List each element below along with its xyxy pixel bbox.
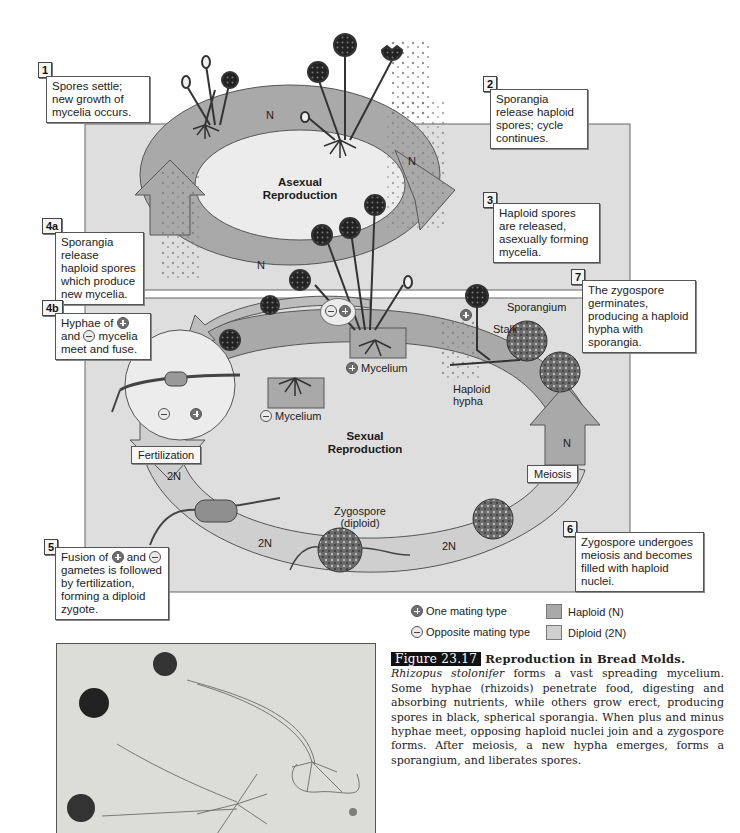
legend-minus: Opposite mating type: [411, 626, 530, 638]
minus-mating-icon: [149, 551, 161, 563]
ploidy-n-meiosis: N: [563, 437, 571, 449]
minus-mating-icon: [83, 330, 95, 342]
ploidy-2n-bottom-left: 2N: [258, 537, 272, 549]
fertilization-tag: Fertilization: [131, 446, 201, 464]
meiosis-tag: Meiosis: [527, 465, 578, 483]
plus-mating-icon: [460, 309, 472, 321]
sexual-title: Sexual Reproduction: [320, 430, 410, 456]
step-5-callout: Fusion of and gametes is followed by fer…: [55, 547, 169, 620]
plus-mycelium-label: Mycelium: [346, 362, 408, 374]
figure-title: Reproduction in Bread Molds.: [485, 652, 685, 666]
diploid-swatch: [546, 625, 562, 640]
haploid-hypha-label: Haploid hypha: [453, 383, 493, 407]
figure-number: Figure 23.17: [391, 652, 481, 666]
step-4a-text: Sporangia release haploid spores which p…: [61, 236, 136, 300]
step-6-text: Zygospore undergoes meiosis and becomes …: [581, 536, 693, 587]
minus-mycelium-label: Mycelium: [260, 410, 322, 422]
step-6-callout: Zygospore undergoes meiosis and becomes …: [575, 532, 704, 592]
asexual-title: Asexual Reproduction: [250, 176, 350, 202]
step-2-text: Sporangia release haploid spores; cycle …: [496, 93, 574, 144]
minus-mating-icon: [260, 410, 272, 422]
minus-mating-icon: [325, 305, 337, 317]
sporangium-label: Sporangium: [507, 301, 566, 313]
caption-body: Rhizopus stolonifer forms a vast spreadi…: [391, 667, 724, 768]
plus-mating-icon: [411, 605, 423, 617]
rhizopus-photo: [56, 643, 376, 833]
ploidy-n-right: N: [408, 155, 416, 167]
plus-mating-icon: [346, 362, 358, 374]
ploidy-n-left: N: [257, 259, 265, 271]
minus-mating-icon: [158, 408, 170, 420]
plus-mating-icon: [117, 317, 129, 329]
step-3-callout: Haploid spores are released, asexually f…: [493, 203, 600, 263]
ploidy-n-top: N: [266, 109, 274, 121]
plus-mating-icon: [112, 551, 124, 563]
legend-plus: One mating type: [411, 605, 507, 617]
photo-illustration: [57, 644, 375, 833]
legend-haploid: Haploid (N): [546, 604, 624, 619]
ploidy-2n-bottom-right: 2N: [442, 540, 456, 552]
zygospore-label: Zygospore(diploid): [334, 505, 386, 529]
step-4a-callout: Sporangia release haploid spores which p…: [55, 232, 144, 305]
step-1-callout: Spores settle; new growth of mycelia occ…: [46, 76, 150, 123]
legend-diploid: Diploid (2N): [546, 625, 626, 640]
step-4b-callout: Hyphae of and mycelia meet and fuse.: [55, 313, 151, 360]
ploidy-2n-fertilization: 2N: [167, 470, 181, 482]
stalk-label: Stalk: [493, 323, 517, 335]
step-2-callout: Sporangia release haploid spores; cycle …: [490, 89, 588, 149]
haploid-swatch: [546, 604, 562, 619]
step-3-text: Haploid spores are released, asexually f…: [499, 207, 588, 258]
step-1-text: Spores settle; new growth of mycelia occ…: [52, 80, 131, 118]
step-7-callout: The zygospore germinates, producing a ha…: [582, 280, 696, 353]
step-7-text: The zygospore germinates, producing a ha…: [588, 284, 688, 348]
minus-mating-icon: [411, 626, 423, 638]
figure-caption: Figure 23.17Reproduction in Bread Molds.…: [391, 652, 724, 768]
fusion-bubble: [320, 298, 356, 326]
species-name: Rhizopus stolonifer: [391, 667, 504, 680]
plus-mating-icon: [339, 305, 351, 317]
